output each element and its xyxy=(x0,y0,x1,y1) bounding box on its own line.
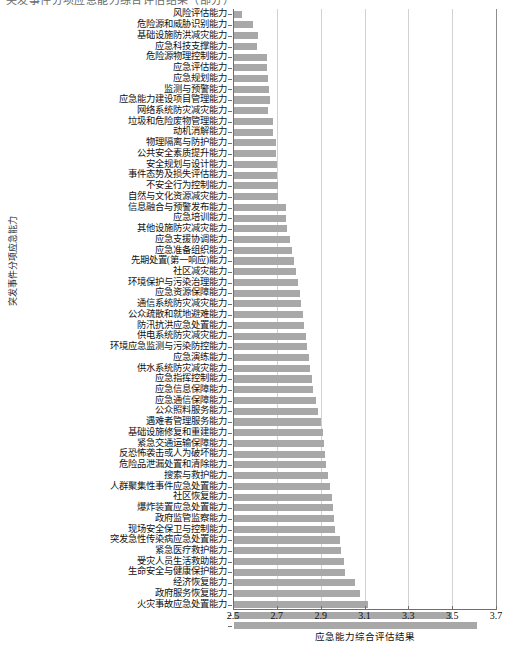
bar xyxy=(234,118,273,125)
category-label: 环境应急监测与污染防控能力 xyxy=(110,341,227,351)
chart-title: 突发事件分项应急能力综合评估结果（部分） xyxy=(6,0,234,7)
x-axis-tick-mark xyxy=(233,606,234,610)
bar-row xyxy=(234,52,496,62)
bar xyxy=(234,386,313,393)
bar-row xyxy=(234,277,496,287)
y-axis-tick xyxy=(228,261,232,262)
y-axis-tick xyxy=(228,175,232,176)
bar-chart: 突发事件分项应急能力综合评估结果（部分） 突发事件分项应急能力 风险评估能力危险… xyxy=(0,0,510,649)
y-axis-tick xyxy=(228,401,232,402)
axis-line-left xyxy=(233,9,234,610)
bar-row xyxy=(234,578,496,588)
bar xyxy=(234,257,294,264)
bar xyxy=(234,440,324,447)
category-label: 社区恢复能力 xyxy=(173,491,227,501)
bar-row xyxy=(234,159,496,169)
bar xyxy=(234,86,269,93)
bar xyxy=(234,290,300,297)
bar xyxy=(234,375,312,382)
bar-row xyxy=(234,245,496,255)
bar-row xyxy=(234,352,496,362)
y-axis-tick xyxy=(228,111,232,112)
bar xyxy=(234,129,273,136)
category-label: 网络系统防灾减灾能力 xyxy=(137,105,227,115)
y-axis-tick xyxy=(228,551,232,552)
bar xyxy=(234,75,268,82)
category-label: 应急信息保障能力 xyxy=(155,384,227,394)
category-label: 应急指挥控制能力 xyxy=(155,373,227,383)
y-axis-tick xyxy=(228,347,232,348)
bar xyxy=(234,225,287,232)
bar xyxy=(234,579,355,586)
category-label: 监测与预警能力 xyxy=(164,84,227,94)
bar-row xyxy=(234,116,496,126)
bar xyxy=(234,215,286,222)
category-label: 供水系统防灾减灾能力 xyxy=(137,363,227,373)
y-axis-tick xyxy=(228,605,232,606)
bar-row xyxy=(234,567,496,577)
bar-row xyxy=(234,138,496,148)
bar-row xyxy=(234,417,496,427)
bar-row xyxy=(234,546,496,556)
y-axis-tick xyxy=(228,304,232,305)
category-label: 垃圾和危险废物管理能力 xyxy=(128,116,227,126)
bar-row xyxy=(234,224,496,234)
bar-row xyxy=(234,213,496,223)
bar xyxy=(234,161,277,168)
y-axis-tick xyxy=(228,508,232,509)
bar xyxy=(234,429,323,436)
x-axis-tick-label: 3.1 xyxy=(358,610,371,621)
y-axis-tick xyxy=(228,422,232,423)
category-label: 先期处置(第一响应)能力 xyxy=(131,255,227,265)
bar xyxy=(234,365,310,372)
y-axis-tick xyxy=(228,79,232,80)
x-axis-tick-mark xyxy=(321,606,322,610)
bar-row xyxy=(234,170,496,180)
bar xyxy=(234,150,276,157)
category-label: 受灾人员生活救助能力 xyxy=(137,556,227,566)
bar xyxy=(234,590,360,597)
bar xyxy=(234,107,268,114)
category-label: 应急培训能力 xyxy=(173,212,227,222)
bar-row xyxy=(234,513,496,523)
category-label: 紧急医疗救护能力 xyxy=(155,545,227,555)
bar xyxy=(234,268,296,275)
y-axis-tick xyxy=(228,583,232,584)
category-label: 政府监管监察能力 xyxy=(155,513,227,523)
y-axis-tick xyxy=(228,229,232,230)
y-axis-tick xyxy=(228,14,232,15)
category-label: 政府服务恢复能力 xyxy=(155,588,227,598)
bar-row xyxy=(234,310,496,320)
bar-row xyxy=(234,331,496,341)
y-axis-tick xyxy=(228,25,232,26)
category-label: 动机消解能力 xyxy=(173,126,227,136)
bar xyxy=(234,300,301,307)
category-label: 信息融合与预警发布能力 xyxy=(128,202,227,212)
bar-row xyxy=(234,320,496,330)
bar xyxy=(234,322,304,329)
bar-row xyxy=(234,385,496,395)
bar xyxy=(234,54,267,61)
y-axis-tick xyxy=(228,154,232,155)
category-label: 通信系统防灾减灾能力 xyxy=(137,298,227,308)
bar xyxy=(234,515,334,522)
y-axis-tick xyxy=(228,336,232,337)
y-axis-tick xyxy=(228,379,232,380)
y-axis-tick xyxy=(228,358,232,359)
category-label: 公众疏散和就地避难能力 xyxy=(128,309,227,319)
bar-row xyxy=(234,9,496,19)
bar-row xyxy=(234,524,496,534)
bar xyxy=(234,343,307,350)
category-label: 爆炸装置应急处置能力 xyxy=(137,502,227,512)
bar-row xyxy=(234,84,496,94)
bar-row xyxy=(234,470,496,480)
bar-row xyxy=(234,95,496,105)
bar xyxy=(234,504,333,511)
bar-row xyxy=(234,492,496,502)
bar xyxy=(234,569,345,576)
bar-row xyxy=(234,363,496,373)
y-axis-tick xyxy=(228,122,232,123)
bar xyxy=(234,536,340,543)
bar xyxy=(234,601,368,608)
bar xyxy=(234,451,325,458)
